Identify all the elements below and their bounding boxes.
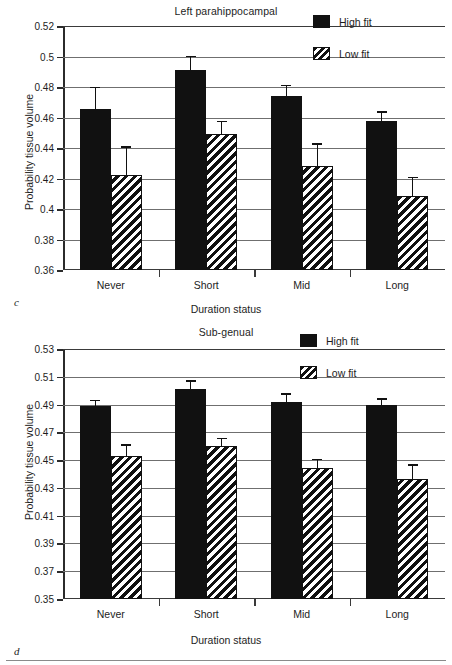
bar-mid-high-fit (271, 96, 302, 270)
figure-root: Left parahippocampal Probability tissue … (0, 0, 452, 665)
error-bar-cap (90, 400, 100, 401)
bar-mid-high-fit (271, 402, 302, 599)
chart-panel-c: Left parahippocampal Probability tissue … (0, 0, 452, 332)
bar-mid-low-fit (302, 468, 333, 599)
y-gridline (63, 57, 445, 58)
panel-letter-d: d (14, 645, 20, 657)
error-bar-cap (217, 438, 227, 439)
y-axis-tick-label: 0.44 (35, 143, 54, 154)
legend-label-low-fit-c: Low fit (339, 48, 369, 60)
y-axis-tick (57, 543, 63, 545)
bar-never-low-fit (111, 175, 142, 270)
y-axis-tick (57, 87, 63, 89)
x-axis-label-short: Short (194, 608, 219, 620)
y-gridline (63, 87, 445, 88)
bar-long-high-fit (366, 405, 397, 599)
legend-label-low-fit-d: Low fit (326, 367, 356, 379)
error-bar-stem (317, 143, 318, 166)
bar-short-low-fit (206, 134, 237, 270)
y-axis-tick (57, 240, 63, 242)
legend-item-low-fit-d: Low fit (300, 366, 359, 379)
y-axis-label-c: Probability tissue volume (23, 94, 35, 210)
y-axis-tick (57, 405, 63, 407)
error-bar-stem (381, 111, 382, 121)
y-axis-tick (57, 270, 63, 272)
y-axis-tick (57, 57, 63, 59)
error-bar-cap (186, 56, 196, 57)
y-axis-tick-label: 0.38 (35, 234, 54, 245)
y-axis-label-d: Probability tissue volume (23, 404, 35, 520)
y-axis-tick (57, 349, 63, 351)
error-bar-cap (281, 85, 291, 86)
y-axis-tick-label: 0.52 (35, 21, 54, 32)
x-axis-label-long: Long (386, 608, 409, 620)
x-axis-tick (350, 270, 352, 277)
error-bar-cap (408, 177, 418, 178)
y-axis-tick-label: 0.48 (35, 82, 54, 93)
legend-item-low-fit-c: Low fit (313, 47, 372, 60)
y-axis-tick-label: 0.5 (40, 51, 54, 62)
error-bar-stem (412, 464, 413, 479)
x-axis-label-c: Duration status (0, 303, 452, 315)
y-axis-line (63, 349, 65, 599)
error-bar-cap (217, 121, 227, 122)
footer-divider (6, 660, 446, 661)
bar-short-high-fit (175, 70, 206, 270)
y-axis-tick-label: 0.41 (35, 510, 54, 521)
y-axis-tick (57, 179, 63, 181)
error-bar-stem (412, 177, 413, 196)
error-bar-cap (312, 143, 322, 144)
y-axis-tick (57, 377, 63, 379)
error-bar-cap (377, 111, 387, 112)
y-axis-tick-label: 0.42 (35, 173, 54, 184)
y-gridline (63, 377, 445, 378)
error-bar-cap (408, 464, 418, 465)
y-axis-tick (57, 460, 63, 462)
legend-swatch-solid-icon (300, 334, 317, 347)
y-axis-tick-label: 0.47 (35, 427, 54, 438)
legend-label-high-fit-c: High fit (339, 16, 372, 28)
y-gridline (63, 349, 445, 350)
error-bar-cap (186, 380, 196, 381)
plot-area-c: 0.360.380.40.420.440.460.480.50.52NeverS… (63, 26, 445, 270)
error-bar-stem (221, 121, 222, 134)
x-axis-label-never: Never (97, 608, 125, 620)
legend-item-high-fit-c: High fit (313, 15, 372, 28)
error-bar-stem (126, 146, 127, 174)
y-axis-tick (57, 148, 63, 150)
x-axis-label-short: Short (194, 279, 219, 291)
error-bar-stem (95, 87, 96, 109)
y-gridline (63, 26, 445, 27)
y-axis-tick-label: 0.51 (35, 371, 54, 382)
x-axis-tick (254, 599, 256, 606)
y-axis-tick-label: 0.45 (35, 455, 54, 466)
y-axis-tick-label: 0.35 (35, 594, 54, 605)
bar-never-high-fit (80, 109, 111, 270)
y-axis-tick-label: 0.49 (35, 399, 54, 410)
y-gridline (63, 118, 445, 119)
bar-long-low-fit (397, 479, 428, 599)
error-bar-stem (286, 85, 287, 96)
y-axis-tick-label: 0.4 (40, 204, 54, 215)
plot-frame-c: 0.360.380.40.420.440.460.480.50.52NeverS… (63, 26, 445, 270)
y-axis-tick (57, 26, 63, 28)
error-bar-stem (190, 56, 191, 70)
chart-title-c: Left parahippocampal (0, 5, 452, 17)
x-axis-tick (254, 270, 256, 277)
bar-long-low-fit (397, 196, 428, 270)
y-axis-tick (57, 118, 63, 120)
error-bar-stem (317, 459, 318, 469)
error-bar-cap (281, 393, 291, 394)
y-axis-tick-label: 0.43 (35, 482, 54, 493)
error-bar-cap (121, 146, 131, 147)
y-axis-tick-label: 0.36 (35, 265, 54, 276)
x-axis-label-d: Duration status (0, 634, 452, 646)
legend-swatch-hatch-icon (300, 366, 317, 379)
bar-long-high-fit (366, 121, 397, 270)
legend-label-high-fit-d: High fit (326, 335, 359, 347)
panel-letter-c: c (14, 296, 19, 308)
y-axis-tick (57, 516, 63, 518)
plot-area-d: 0.350.370.390.410.430.450.470.490.510.53… (63, 349, 445, 599)
legend-item-high-fit-d: High fit (300, 334, 359, 347)
x-axis-label-mid: Mid (293, 608, 310, 620)
